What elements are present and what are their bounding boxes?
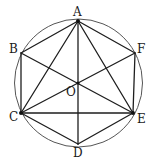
vertex-dots-group: [19, 19, 135, 115]
segment-AE: [78, 21, 133, 113]
segment-EF: [133, 53, 135, 113]
label-C: C: [9, 110, 18, 124]
segment-CD: [21, 113, 78, 144]
point-A: [76, 19, 80, 23]
label-E: E: [137, 112, 146, 126]
segment-DE: [78, 113, 133, 144]
label-B: B: [9, 42, 18, 56]
label-A: A: [72, 5, 82, 19]
hexagon-diagram: A B C D E F O: [0, 0, 155, 165]
point-C: [19, 111, 23, 115]
label-O: O: [66, 85, 76, 99]
label-F: F: [137, 42, 145, 56]
label-D: D: [73, 146, 83, 160]
segment-AC: [21, 21, 78, 113]
point-E: [131, 111, 135, 115]
point-O: [76, 81, 79, 84]
